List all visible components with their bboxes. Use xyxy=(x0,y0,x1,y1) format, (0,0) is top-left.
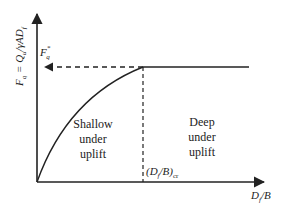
uplift-diagram xyxy=(0,0,296,210)
y-label-main: F xyxy=(13,79,25,86)
critical-embedment-label: (Df/B)cr xyxy=(146,165,178,177)
shallow-line1: Shallow xyxy=(70,117,116,132)
x-axis-label: Df/B xyxy=(251,189,271,201)
y-label-eq: = Q xyxy=(13,55,25,76)
deep-line2: under xyxy=(182,130,222,145)
y-label-sub3: f xyxy=(20,27,28,29)
crit-mid: /B) xyxy=(160,165,173,177)
deep-line1: Deep xyxy=(182,115,222,130)
x-label-main: D xyxy=(251,189,259,201)
y-label-rest: /γAD xyxy=(13,29,25,51)
crit-open: (D xyxy=(146,165,158,177)
y-label-sub2: u xyxy=(20,51,28,55)
deep-region-label: Deep under uplift xyxy=(182,115,222,160)
shallow-line2: under xyxy=(70,132,116,147)
y-axis-label: Fq = Qu/γADf xyxy=(13,27,25,86)
shallow-line3: uplift xyxy=(70,147,116,162)
x-label-rest: /B xyxy=(261,189,271,201)
shallow-region-label: Shallow under uplift xyxy=(70,117,116,162)
plateau-sub: q xyxy=(46,53,50,61)
crit-sub2: cr xyxy=(173,172,178,180)
plateau-sup: * xyxy=(47,44,51,52)
y-label-sub: q xyxy=(20,76,28,80)
deep-line3: uplift xyxy=(182,145,222,160)
plateau-marker-label: F*q xyxy=(40,46,50,58)
